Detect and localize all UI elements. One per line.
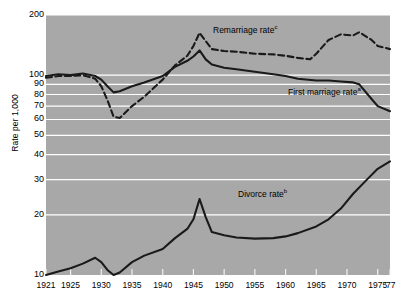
plot-area — [0, 0, 407, 304]
series-label-remarriage-rate: Remarriage ratec — [213, 25, 277, 35]
series-label-first-marriage-rate: First marriage ratea — [288, 87, 361, 97]
series-label-divorce-rate: Divorce rateb — [238, 189, 287, 199]
series-label-footnote: a — [357, 86, 360, 92]
series-label-footnote: c — [274, 24, 277, 30]
plot-background — [46, 15, 390, 275]
series-label-text: First marriage rate — [288, 87, 357, 97]
series-label-text: Divorce rate — [238, 189, 284, 199]
series-label-footnote: b — [284, 188, 287, 194]
x-tick-label-77: '77 — [370, 280, 407, 290]
series-label-text: Remarriage rate — [213, 25, 274, 35]
chart-figure: Rate per 1,000 200100908070605040302010 … — [0, 0, 407, 304]
